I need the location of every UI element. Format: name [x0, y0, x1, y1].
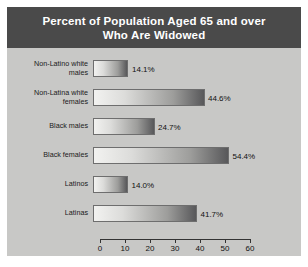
x-axis-tick: [225, 239, 226, 243]
chart-title-line-2: Who Are Widowed: [103, 28, 206, 42]
x-axis-tick-label: 0: [98, 244, 102, 253]
chart-panel: Percent of Population Aged 65 and over W…: [7, 7, 301, 256]
bar-track: 44.6%: [93, 87, 301, 108]
category-label: Latinas: [7, 209, 93, 217]
x-axis-tick-label: 40: [196, 244, 205, 253]
category-label-line: Latinos: [7, 180, 88, 188]
category-label: Black females: [7, 151, 93, 159]
bar-value-label: 54.4%: [233, 151, 256, 160]
bar-track: 41.7%: [93, 203, 301, 224]
bar: [93, 176, 128, 193]
bar-value-label: 44.6%: [208, 93, 231, 102]
bar-track: 14.1%: [93, 58, 301, 79]
bar: [93, 147, 229, 164]
x-axis-tick: [100, 239, 101, 243]
bar-value-label: 24.7%: [158, 122, 181, 131]
category-label-line: Black males: [7, 122, 88, 130]
x-axis-tick-label: 50: [221, 244, 230, 253]
bar-track: 14.0%: [93, 174, 301, 195]
bar-track: 54.4%: [93, 145, 301, 166]
x-axis-tick-label: 20: [146, 244, 155, 253]
x-axis-tick: [175, 239, 176, 243]
plot-area: Non-Latino white males 14.1% Non-Latina …: [7, 48, 301, 256]
x-axis-tick: [200, 239, 201, 243]
bar-row: Non-Latina white females 44.6%: [7, 87, 301, 108]
x-axis-tick-label: 60: [246, 244, 255, 253]
category-label: Non-Latina white females: [7, 89, 93, 106]
x-axis-tick: [250, 239, 251, 243]
category-label: Black males: [7, 122, 93, 130]
x-axis-tick-label: 10: [121, 244, 130, 253]
bar: [93, 205, 197, 222]
bar-value-label: 14.0%: [132, 180, 155, 189]
category-label-line: females: [7, 98, 88, 106]
bar-value-label: 14.1%: [132, 64, 155, 73]
x-axis-tick: [150, 239, 151, 243]
x-axis-tick: [125, 239, 126, 243]
bar-row: Latinos 14.0%: [7, 174, 301, 195]
bar: [93, 60, 128, 77]
bar: [93, 89, 205, 106]
x-axis-tick-label: 30: [171, 244, 180, 253]
bar-value-label: 41.7%: [201, 209, 224, 218]
bar: [93, 118, 155, 135]
bar-row: Black females 54.4%: [7, 145, 301, 166]
chart-title-line-1: Percent of Population Aged 65 and over: [42, 14, 265, 28]
category-label-line: males: [7, 69, 88, 77]
category-label: Latinos: [7, 180, 93, 188]
chart-title-band: Percent of Population Aged 65 and over W…: [7, 7, 301, 48]
chart-figure: Percent of Population Aged 65 and over W…: [0, 0, 308, 267]
bar-track: 24.7%: [93, 116, 301, 137]
bar-row: Black males 24.7%: [7, 116, 301, 137]
bar-row: Latinas 41.7%: [7, 203, 301, 224]
category-label: Non-Latino white males: [7, 60, 93, 77]
category-label-line: Black females: [7, 151, 88, 159]
category-label-line: Latinas: [7, 209, 88, 217]
bar-row: Non-Latino white males 14.1%: [7, 58, 301, 79]
